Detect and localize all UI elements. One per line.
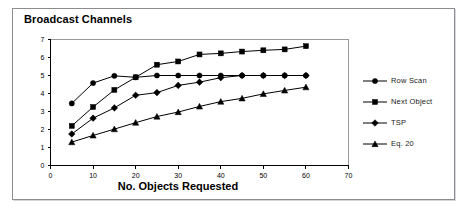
diamond-marker-icon bbox=[132, 92, 139, 99]
x-tick-label: 70 bbox=[345, 172, 353, 179]
y-tick-label: 7 bbox=[41, 36, 45, 43]
circle-marker-icon bbox=[176, 73, 181, 78]
series-line bbox=[72, 46, 306, 126]
series-group bbox=[68, 44, 309, 145]
y-tick-label: 2 bbox=[41, 126, 45, 133]
chart-figure: Broadcast Channels 012345670102030405060… bbox=[0, 0, 467, 220]
series-line bbox=[72, 76, 306, 104]
legend-label: Row Scan bbox=[391, 76, 427, 85]
y-tick-label: 6 bbox=[41, 54, 45, 61]
diamond-marker-icon bbox=[260, 72, 267, 79]
diamond-marker-icon bbox=[281, 72, 288, 79]
legend-swatch bbox=[362, 75, 388, 87]
square-marker-icon bbox=[261, 48, 266, 53]
square-marker-icon bbox=[154, 62, 159, 67]
x-tick-label: 60 bbox=[302, 172, 310, 179]
square-marker-icon bbox=[91, 105, 96, 110]
legend-swatch bbox=[362, 96, 388, 108]
circle-marker-icon bbox=[112, 73, 117, 78]
series-row-scan bbox=[69, 73, 308, 106]
legend-label: Eq. 20 bbox=[391, 139, 414, 148]
diamond-marker-icon bbox=[303, 72, 310, 79]
x-tick-label: 10 bbox=[89, 172, 97, 179]
diamond-marker-icon bbox=[111, 105, 118, 112]
circle-marker-icon bbox=[372, 78, 377, 83]
y-tick-label: 3 bbox=[41, 108, 45, 115]
square-marker-icon bbox=[218, 51, 223, 56]
x-tick-label: 30 bbox=[174, 172, 182, 179]
diamond-marker-icon bbox=[175, 82, 182, 89]
y-tick-label: 0 bbox=[41, 162, 45, 169]
square-marker-icon bbox=[197, 52, 202, 57]
legend-label: TSP bbox=[391, 118, 406, 127]
square-marker-icon bbox=[133, 75, 138, 80]
y-tick-label: 4 bbox=[41, 90, 45, 97]
square-marker-icon bbox=[112, 87, 117, 92]
series-tsp bbox=[68, 72, 309, 137]
circle-marker-icon bbox=[154, 73, 159, 78]
series-next-object bbox=[69, 44, 308, 129]
square-marker-icon bbox=[303, 44, 308, 49]
x-axis-title: No. Objects Requested bbox=[0, 180, 356, 192]
x-tick-label: 40 bbox=[217, 172, 225, 179]
y-tick-label: 1 bbox=[41, 144, 45, 151]
square-marker-icon bbox=[240, 49, 245, 54]
square-marker-icon bbox=[373, 99, 378, 104]
legend-item-next-object[interactable]: Next Object bbox=[362, 91, 454, 112]
triangle-marker-icon bbox=[303, 84, 309, 90]
legend-swatch bbox=[362, 117, 388, 129]
chart-legend: Row ScanNext ObjectTSPEq. 20 bbox=[362, 70, 454, 154]
x-tick-label: 0 bbox=[49, 172, 53, 179]
series-line bbox=[72, 76, 306, 135]
circle-marker-icon bbox=[69, 101, 74, 106]
diamond-marker-icon bbox=[196, 79, 203, 86]
plot-frame bbox=[51, 40, 349, 166]
diamond-marker-icon bbox=[154, 89, 161, 96]
circle-marker-icon bbox=[90, 80, 95, 85]
square-marker-icon bbox=[282, 47, 287, 52]
legend-item-tsp[interactable]: TSP bbox=[362, 112, 454, 133]
x-tick-label: 20 bbox=[132, 172, 140, 179]
square-marker-icon bbox=[176, 59, 181, 64]
legend-label: Next Object bbox=[391, 97, 432, 106]
diamond-marker-icon bbox=[239, 72, 246, 79]
legend-item-row-scan[interactable]: Row Scan bbox=[362, 70, 454, 91]
square-marker-icon bbox=[69, 123, 74, 128]
x-tick-label: 50 bbox=[259, 172, 267, 179]
legend-item-eq-20[interactable]: Eq. 20 bbox=[362, 133, 454, 154]
circle-marker-icon bbox=[197, 73, 202, 78]
diamond-marker-icon bbox=[372, 119, 379, 126]
y-tick-label: 5 bbox=[41, 72, 45, 79]
legend-swatch bbox=[362, 138, 388, 150]
series-eq-20 bbox=[69, 84, 309, 145]
